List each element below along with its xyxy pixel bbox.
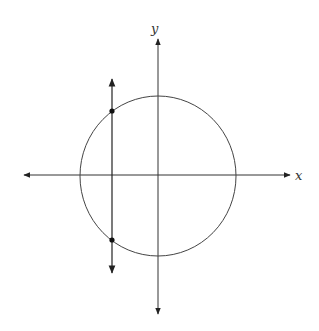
lower-intersection-point [109,237,114,242]
upper-intersection-point [109,108,114,113]
y-axis-label: y [150,21,159,36]
coordinate-diagram: x y [0,0,319,331]
x-axis-label: x [295,168,303,183]
